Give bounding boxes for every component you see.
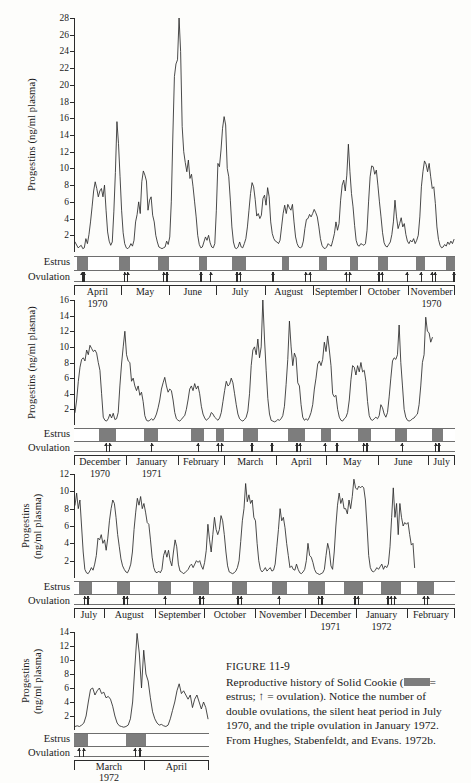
ovulation-arrow-icon: [279, 596, 280, 605]
ovulation-row-label: Ovulation: [2, 271, 70, 282]
month-label: November: [410, 286, 452, 297]
panel-2-data-curve: [74, 300, 455, 425]
ovulation-arrow-icon: [200, 272, 201, 282]
estrus-bar: [216, 429, 224, 441]
month-boundary-tick: [208, 761, 209, 770]
ovulation-baseline: [74, 451, 455, 452]
ovulation-arrow-icon: [139, 748, 140, 757]
panel-4-month-axis: [74, 760, 209, 772]
panel-4-y-tick-label: 10: [50, 655, 69, 665]
estrus-bar: [446, 257, 455, 270]
panel-1-data-curve: [74, 18, 455, 252]
month-boundary-tick: [276, 456, 277, 465]
panel-4-y-tick-label: 4: [50, 697, 69, 707]
month-label: January: [136, 456, 167, 467]
estrus-bar: [378, 257, 387, 270]
ovulation-arrow-icon: [271, 443, 272, 452]
panel-4-y-tick-label: 12: [50, 641, 69, 651]
panel-2-y-tick-label: 2: [50, 404, 69, 414]
month-boundary-tick: [428, 456, 429, 465]
ovulation-arrow-icon: [251, 443, 252, 452]
panel-3-y-tick-label: 4: [50, 538, 69, 548]
month-label: June: [184, 286, 202, 297]
estrus-bar: [199, 257, 207, 270]
ovulation-baseline: [74, 604, 455, 605]
month-year-label: 1972: [372, 621, 392, 632]
panel-1-y-tick-label: 2: [50, 230, 69, 240]
month-boundary-tick: [74, 286, 75, 295]
panel-3-y-tick-label: 8: [50, 504, 69, 514]
month-label: March: [96, 761, 122, 772]
estrus-legend-swatch: [404, 678, 430, 686]
panel-2-ovulation-track: [74, 443, 455, 452]
panel-2-y-tick-label: 14: [50, 311, 69, 321]
panel-2-y-tick-label: 12: [50, 326, 69, 336]
panel-1-y-tick-label: 16: [50, 113, 69, 123]
panel-1-y-tick-label: 18: [50, 97, 69, 107]
month-label: August: [115, 609, 144, 620]
month-boundary-tick: [74, 609, 75, 618]
panel-2-y-tick-label: 16: [50, 295, 69, 305]
month-year-label: 1972: [99, 772, 119, 783]
panel-1-y-tick-label: 6: [50, 197, 69, 207]
ovulation-arrow-icon: [421, 272, 422, 282]
panel-3-y-tick-label: 2: [50, 556, 69, 566]
month-label: August: [274, 286, 303, 297]
month-boundary-tick: [74, 761, 75, 770]
estrus-row-label: Estrus: [8, 733, 70, 744]
panel-3-y-tick-label: 6: [50, 521, 69, 531]
estrus-bar: [288, 429, 305, 441]
panel-1-y-tick-label: 14: [50, 130, 69, 140]
ovulation-arrow-icon: [210, 272, 211, 282]
ovulation-arrow-icon: [79, 748, 80, 757]
panel-1-y-tick-label: 10: [50, 163, 69, 173]
ovulation-arrow-icon: [427, 596, 428, 605]
estrus-bar: [417, 582, 433, 594]
month-boundary-tick: [121, 286, 122, 295]
ovulation-arrow-icon: [127, 272, 128, 282]
month-boundary-tick: [104, 609, 105, 618]
month-boundary-tick: [224, 456, 225, 465]
panel-1-y-tick-label: 28: [50, 13, 69, 23]
ovulation-arrow-icon: [198, 443, 199, 452]
panel-3-y-axis-label: Progestins (ng/ml plasma): [20, 470, 46, 582]
estrus-bar: [319, 257, 327, 270]
ovulation-arrow-icon: ↑: [259, 690, 265, 702]
panel-4-data-curve: [74, 632, 209, 730]
ovulation-arrow-icon: [305, 272, 306, 282]
ovulation-arrow-icon: [127, 596, 128, 605]
month-boundary-tick: [255, 609, 256, 618]
month-year-label: 1971: [320, 621, 340, 632]
month-label: December: [79, 456, 120, 467]
figure-caption-title: FIGURE 11-9: [226, 660, 458, 675]
ovulation-arrow-icon: [221, 443, 222, 452]
estrus-bar: [282, 257, 290, 270]
month-label: December: [310, 609, 351, 620]
ovulation-arrow-icon: [165, 596, 166, 605]
ovulation-arrow-icon: [310, 272, 311, 282]
month-label: July: [81, 609, 98, 620]
month-label: September: [158, 609, 201, 620]
month-boundary-tick: [305, 609, 306, 618]
month-label: July: [232, 286, 249, 297]
panel-4-y-axis-label: Progestins (ng/ml plasma): [20, 628, 46, 734]
estrus-bar: [191, 429, 204, 441]
estrus-bar: [350, 257, 358, 270]
month-boundary-tick: [216, 286, 217, 295]
estrus-row-label: Estrus: [8, 256, 70, 267]
ovulation-baseline: [74, 756, 209, 757]
panel-1-y-tick-label: 22: [50, 63, 69, 73]
ovulation-arrow-icon: [135, 748, 136, 757]
month-boundary-tick: [326, 456, 327, 465]
ovulation-arrow-icon: [358, 596, 359, 605]
month-label: February: [413, 609, 449, 620]
panel-4-y-tick-label: 2: [50, 711, 69, 721]
estrus-bar: [144, 429, 157, 441]
month-label: April: [87, 286, 108, 297]
ovulation-arrow-icon: [300, 443, 301, 452]
ovulation-arrow-icon: [366, 443, 367, 452]
panel-1-y-tick-label: 24: [50, 46, 69, 56]
month-boundary-tick: [204, 609, 205, 618]
ovulation-arrow-icon: [325, 443, 326, 452]
panel-3-data-curve: [74, 474, 455, 578]
